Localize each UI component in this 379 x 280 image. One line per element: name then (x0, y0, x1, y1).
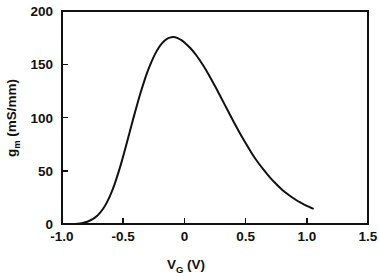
x-tick-label: -1.0 (50, 229, 73, 244)
chart-figure: -1.0-0.500.51.01.5 050100150200 VG (V) g… (0, 0, 379, 280)
x-axis-tick-labels: -1.0-0.500.51.01.5 (50, 229, 378, 244)
x-axis-label: VG (V) (167, 257, 205, 275)
x-tick-label: -0.5 (112, 229, 136, 244)
x-axis-label-unit: (V) (187, 257, 205, 272)
y-tick-label: 200 (30, 4, 53, 19)
y-axis-tick-labels: 050100150200 (30, 4, 53, 232)
x-tick-label: 1.0 (297, 229, 316, 244)
y-axis-ticks (62, 64, 68, 171)
x-axis-label-subscript: G (176, 264, 183, 275)
svg-text:VG (V): VG (V) (167, 257, 205, 275)
y-tick-label: 150 (30, 57, 53, 72)
svg-text:gm (mS/mm): gm (mS/mm) (4, 79, 22, 157)
y-axis-label-subscript: m (11, 140, 22, 148)
y-axis-label-unit: (mS/mm) (4, 79, 19, 137)
x-tick-label: 0 (181, 229, 189, 244)
y-axis-label: gm (mS/mm) (4, 79, 22, 157)
plot-frame (62, 11, 368, 224)
y-tick-label: 50 (38, 164, 53, 179)
x-tick-label: 0.5 (236, 229, 255, 244)
y-axis-label-main: g (4, 149, 19, 157)
transconductance-line-chart: -1.0-0.500.51.01.5 050100150200 VG (V) g… (0, 0, 379, 280)
y-tick-label: 100 (30, 111, 53, 126)
y-tick-label: 0 (45, 217, 53, 232)
data-series-transconductance (74, 37, 313, 224)
x-axis-ticks (123, 218, 307, 224)
x-tick-label: 1.5 (359, 229, 378, 244)
x-axis-label-main: V (167, 257, 176, 272)
